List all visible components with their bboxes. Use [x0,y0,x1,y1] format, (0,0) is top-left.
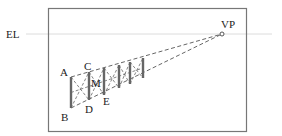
convergence-lines [71,34,222,108]
picture-frame [49,9,247,132]
label-a: A [60,66,68,78]
label-m: M [91,77,101,89]
label-c: C [84,60,91,72]
eye-level-label: EL [6,28,20,40]
perspective-diagram: EL VP A B C D E M [0,0,282,136]
label-d: D [85,103,93,115]
label-e: E [103,95,110,107]
vanishing-point-marker [220,32,224,36]
label-b: B [61,111,68,123]
vanishing-point-label: VP [221,18,235,30]
